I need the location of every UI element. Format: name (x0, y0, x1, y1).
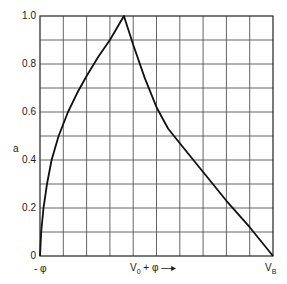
y-axis-label: a (13, 144, 19, 154)
x-label-right: VB (265, 263, 276, 277)
x-mid-rest: + φ —▸ (141, 262, 177, 273)
x-label-left: - φ (34, 264, 47, 274)
y-tick-1.0: 1.0 (6, 11, 36, 21)
y-tick-0.4: 0.4 (6, 155, 36, 165)
x-mid-v: V (130, 262, 137, 273)
y-tick-0.2: 0.2 (6, 203, 36, 213)
plot (0, 0, 287, 284)
y-tick-0.8: 0.8 (6, 59, 36, 69)
grid (40, 16, 273, 256)
x-label-mid: V0 + φ —▸ (130, 263, 176, 277)
y-tick-0: 0 (6, 251, 36, 261)
x-right-sub: B (272, 268, 277, 275)
x-right-v: V (265, 262, 272, 273)
y-tick-0.6: 0.6 (6, 107, 36, 117)
